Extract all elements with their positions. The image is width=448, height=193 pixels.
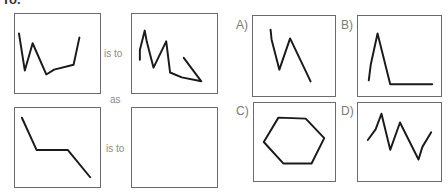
analogy-box-1: [14, 13, 101, 94]
step-line-figure: [15, 108, 100, 187]
is-to-label-1: is to: [104, 48, 122, 59]
option-b-label: B): [341, 18, 353, 32]
option-d-figure: [358, 103, 441, 181]
answer-box-empty: [131, 107, 218, 188]
header-fragment: To.: [2, 0, 21, 7]
option-b-figure: [358, 16, 441, 96]
option-b-box[interactable]: [357, 15, 442, 97]
as-label: as: [110, 94, 121, 105]
hexagon-figure: [254, 103, 335, 181]
option-a-figure: [253, 16, 335, 96]
option-a-box[interactable]: [252, 15, 336, 97]
option-a-label: A): [236, 18, 248, 32]
analogy-box-3: [14, 107, 101, 188]
is-to-label-2: is to: [106, 143, 124, 154]
analogy-box-2: [131, 13, 218, 94]
option-c-label: C): [236, 104, 249, 118]
option-d-label: D): [341, 104, 354, 118]
option-c-box[interactable]: [253, 102, 336, 182]
complex-zigzag-figure: [132, 14, 217, 93]
option-d-box[interactable]: [357, 102, 442, 182]
zigzag-line-figure: [15, 14, 100, 93]
